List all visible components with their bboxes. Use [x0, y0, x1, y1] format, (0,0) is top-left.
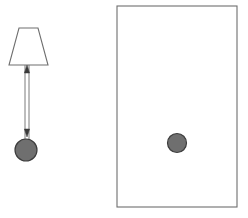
diagram-canvas — [0, 0, 248, 218]
pendulum-bob-circle — [15, 139, 37, 161]
trapezoid-mount — [9, 28, 48, 65]
pendulum-assembly — [9, 28, 48, 161]
scene-svg — [0, 0, 248, 218]
container-group — [117, 6, 237, 207]
free-ball-circle — [168, 134, 187, 153]
container-rectangle — [117, 6, 237, 207]
